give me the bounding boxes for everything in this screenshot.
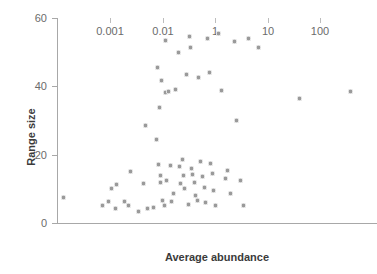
y-tick-label: 40: [35, 80, 47, 92]
data-point: [176, 50, 181, 55]
data-point: [198, 159, 203, 164]
y-tick: 0: [52, 223, 57, 224]
x-tick: [320, 18, 321, 23]
y-tick: 60: [52, 18, 57, 19]
data-point: [171, 191, 176, 196]
data-point: [238, 178, 243, 183]
data-point: [210, 171, 215, 176]
data-point: [114, 182, 119, 187]
data-point: [192, 180, 197, 185]
data-point: [151, 205, 156, 210]
data-point: [162, 203, 167, 208]
data-point: [136, 209, 141, 214]
data-point: [173, 87, 178, 92]
data-point: [187, 34, 192, 39]
data-point: [232, 39, 237, 44]
data-point: [180, 157, 185, 162]
data-point: [155, 65, 160, 70]
data-point: [189, 166, 194, 171]
data-point: [196, 75, 201, 80]
data-point: [109, 186, 114, 191]
data-point: [190, 172, 195, 177]
data-point: [158, 180, 163, 185]
data-point: [168, 163, 173, 168]
data-point: [241, 203, 246, 208]
data-point: [205, 36, 210, 41]
data-point: [234, 118, 239, 123]
data-point: [225, 168, 230, 173]
data-point: [219, 88, 224, 93]
data-point: [145, 206, 150, 211]
data-point: [100, 203, 105, 208]
data-point: [211, 188, 216, 193]
x-axis-title: Average abundance: [57, 251, 377, 263]
data-point: [158, 173, 163, 178]
data-point: [216, 31, 221, 36]
x-tick: [268, 18, 269, 23]
data-point: [213, 203, 218, 208]
data-point: [154, 137, 159, 142]
data-point: [160, 198, 165, 203]
data-point: [188, 45, 193, 50]
data-point: [159, 78, 164, 83]
data-point: [202, 185, 207, 190]
data-point: [228, 191, 233, 196]
data-point: [200, 174, 205, 179]
x-tick: [215, 18, 216, 23]
data-point: [106, 199, 111, 204]
data-point: [256, 45, 261, 50]
data-point: [203, 200, 208, 205]
data-point: [348, 89, 353, 94]
data-point: [223, 176, 228, 181]
data-point: [164, 178, 169, 183]
data-point: [157, 105, 162, 110]
data-point: [208, 161, 213, 166]
x-tick-label: 0.01: [152, 25, 173, 37]
data-point: [141, 181, 146, 186]
y-tick-label: 20: [35, 149, 47, 161]
plot-area: 0204060 0.0010.01110100: [57, 18, 377, 223]
data-point: [128, 169, 133, 174]
data-point: [126, 203, 131, 208]
data-point: [156, 162, 161, 167]
scatter-chart: Range size 0204060 0.0010.01110100 Avera…: [0, 0, 377, 274]
data-point: [246, 36, 251, 41]
data-point: [113, 206, 118, 211]
data-point: [182, 186, 187, 191]
y-tick: 20: [52, 155, 57, 156]
data-point: [166, 89, 171, 94]
x-axis-line: [57, 223, 377, 224]
x-tick-label: 0.001: [96, 25, 124, 37]
y-tick: 40: [52, 86, 57, 87]
data-point: [61, 195, 66, 200]
x-tick-label: 10: [262, 25, 274, 37]
data-point: [184, 72, 189, 77]
x-tick: [163, 18, 164, 23]
x-tick: [110, 18, 111, 23]
data-point: [169, 199, 174, 204]
data-point: [297, 96, 302, 101]
data-point: [181, 173, 186, 178]
data-point: [143, 123, 148, 128]
data-point: [186, 202, 191, 207]
y-tick-label: 60: [35, 12, 47, 24]
data-point: [163, 38, 168, 43]
data-point: [207, 70, 212, 75]
data-point: [177, 164, 182, 169]
y-tick-label: 0: [41, 217, 47, 229]
x-tick-label: 100: [311, 25, 329, 37]
data-point: [195, 198, 200, 203]
